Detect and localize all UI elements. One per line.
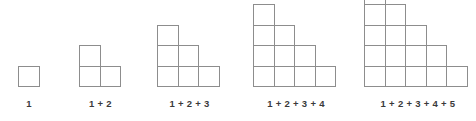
unit-square	[79, 66, 101, 88]
figure-caption: 1 + 2	[79, 98, 122, 109]
staircase-figure-2: 1 + 2	[79, 0, 122, 121]
staircase-grid	[18, 66, 39, 87]
unit-square	[274, 45, 296, 67]
figure-caption: 1	[18, 98, 40, 109]
unit-square	[18, 66, 40, 88]
staircase-grid	[157, 25, 219, 87]
unit-square	[385, 25, 407, 47]
unit-square	[315, 66, 337, 88]
staircase-row	[253, 4, 335, 25]
unit-square	[178, 66, 200, 88]
unit-square	[157, 25, 179, 47]
staircase-row	[364, 66, 467, 87]
unit-square	[178, 45, 200, 67]
unit-square	[364, 66, 386, 88]
staircase-grid	[253, 4, 335, 86]
diagram-canvas: 11 + 21 + 2 + 31 + 2 + 3 + 41 + 2 + 3 + …	[0, 0, 476, 121]
unit-square	[294, 45, 316, 67]
staircase-figure-4: 1 + 2 + 3 + 4	[253, 0, 339, 121]
staircase-row	[364, 45, 467, 66]
unit-square	[446, 66, 468, 88]
staircase-row	[157, 45, 219, 66]
figure-caption: 1 + 2 + 3	[157, 98, 222, 109]
unit-square	[385, 66, 407, 88]
unit-square	[253, 25, 275, 47]
unit-square	[426, 66, 448, 88]
unit-square	[253, 66, 275, 88]
unit-square	[253, 45, 275, 67]
staircase-row	[253, 45, 335, 66]
unit-square	[294, 66, 316, 88]
staircase-row	[253, 66, 335, 87]
staircase-figure-1: 1	[18, 0, 40, 121]
unit-square	[274, 25, 296, 47]
staircase-row	[253, 25, 335, 46]
unit-square	[157, 66, 179, 88]
unit-square	[405, 66, 427, 88]
unit-square	[385, 4, 407, 26]
unit-square	[405, 25, 427, 47]
unit-square	[364, 45, 386, 67]
unit-square	[100, 66, 122, 88]
unit-square	[157, 45, 179, 67]
staircase-row	[79, 66, 120, 87]
unit-square	[198, 66, 220, 88]
staircase-row	[364, 25, 467, 46]
unit-square	[364, 4, 386, 26]
staircase-grid	[79, 45, 120, 86]
staircase-figure-5: 1 + 2 + 3 + 4 + 5	[364, 0, 472, 121]
unit-square	[274, 66, 296, 88]
staircase-row	[157, 66, 219, 87]
staircase-figure-3: 1 + 2 + 3	[157, 0, 222, 121]
unit-square	[385, 45, 407, 67]
staircase-grid	[364, 0, 467, 86]
staircase-row	[157, 25, 219, 46]
unit-square	[426, 45, 448, 67]
staircase-row	[18, 66, 39, 87]
figure-caption: 1 + 2 + 3 + 4	[253, 98, 339, 109]
figure-caption: 1 + 2 + 3 + 4 + 5	[364, 98, 472, 109]
unit-square	[253, 4, 275, 26]
staircase-row	[364, 4, 467, 25]
staircase-row	[79, 45, 120, 66]
unit-square	[79, 45, 101, 67]
unit-square	[364, 25, 386, 47]
unit-square	[405, 45, 427, 67]
